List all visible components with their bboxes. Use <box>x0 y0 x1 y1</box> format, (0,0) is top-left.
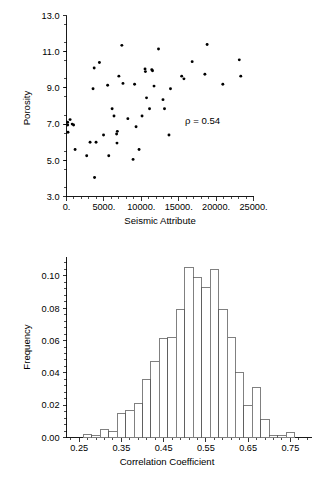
histogram-y-tick-label: 0.00 <box>42 433 60 443</box>
scatter-data-point <box>93 176 96 179</box>
scatter-data-point <box>141 115 144 118</box>
histogram-y-axis-title: Frequency <box>21 324 32 370</box>
scatter-data-point <box>74 148 77 151</box>
histogram-bar <box>193 278 201 438</box>
histogram-bar <box>117 413 125 437</box>
histogram-bar <box>92 436 100 438</box>
scatter-data-point <box>66 124 69 127</box>
scatter-x-tick-label: 15000. <box>165 202 193 212</box>
scatter-data-point <box>180 75 183 78</box>
scatter-y-tick-label: 5.0 <box>47 156 60 166</box>
scatter-data-point <box>102 134 105 137</box>
histogram-x-tick-label: 0.75 <box>281 443 299 453</box>
histogram-y-tick-label: 0.08 <box>42 304 60 314</box>
histogram-bar <box>252 387 260 437</box>
scatter-data-point <box>169 87 172 90</box>
histogram-x-axis-title: Correlation Coefficient <box>120 456 215 467</box>
scatter-data-point <box>106 84 109 87</box>
scatter-rho-annotation: ρ = 0.54 <box>185 115 221 126</box>
histogram-bar <box>286 433 294 438</box>
histogram-bar <box>219 310 227 438</box>
scatter-data-point <box>206 43 209 46</box>
scatter-data-point <box>115 133 118 136</box>
scatter-plot-group: 3.05.07.09.011.013.00.5000.10000.15000.2… <box>21 11 268 226</box>
histogram-bar <box>100 429 108 437</box>
histogram-x-tick-label: 0.25 <box>70 443 88 453</box>
histogram-bar <box>235 373 243 438</box>
histogram-bar <box>109 431 117 437</box>
scatter-data-point <box>72 124 75 127</box>
two-panel-figure: 3.05.07.09.011.013.00.5000.10000.15000.2… <box>0 0 326 490</box>
scatter-axes-lines <box>67 16 254 197</box>
scatter-y-tick-label: 3.0 <box>47 192 60 202</box>
scatter-data-point <box>191 60 194 63</box>
scatter-data-point <box>163 107 166 110</box>
histogram-bar <box>278 436 286 438</box>
scatter-data-point <box>95 141 98 144</box>
histogram-bar <box>227 337 235 437</box>
scatter-data-point <box>93 67 96 70</box>
scatter-x-tick-label: 5000. <box>92 202 115 212</box>
scatter-data-point <box>135 125 138 128</box>
scatter-data-point <box>182 77 185 80</box>
scatter-data-point <box>151 69 154 72</box>
scatter-data-point <box>66 121 69 124</box>
scatter-x-tick-label: 10000. <box>127 202 155 212</box>
scatter-y-tick-label: 11.0 <box>42 47 59 57</box>
histogram-bar <box>126 410 134 437</box>
histogram-y-tick-label: 0.02 <box>42 400 60 410</box>
histogram-bar <box>244 405 252 437</box>
scatter-data-point <box>144 67 147 70</box>
histogram-bar <box>83 434 91 437</box>
scatter-data-point <box>117 75 120 78</box>
histogram-x-tick-label: 0.35 <box>112 443 130 453</box>
histogram-bar <box>134 404 142 438</box>
scatter-data-point <box>89 141 92 144</box>
histogram-bar <box>202 287 210 437</box>
scatter-data-point <box>111 107 114 110</box>
scatter-data-point <box>126 117 129 120</box>
scatter-data-point <box>92 87 95 90</box>
scatter-data-point <box>69 118 72 121</box>
histogram-y-tick-label: 0.06 <box>42 336 60 346</box>
histogram-x-tick-label: 0.55 <box>197 443 215 453</box>
histogram-bar <box>176 310 184 438</box>
scatter-data-point <box>120 44 123 47</box>
scatter-data-point <box>153 85 156 88</box>
scatter-data-point <box>107 154 110 157</box>
scatter-data-point <box>116 130 119 133</box>
scatter-x-axis-title: Seismic Attribute <box>124 215 195 226</box>
histogram-bar <box>159 339 167 438</box>
histogram-plot-group: 0.000.020.040.060.080.100.250.350.450.55… <box>21 257 312 468</box>
scatter-data-point <box>85 154 88 157</box>
scatter-data-point <box>133 83 136 86</box>
scatter-data-point <box>148 107 151 110</box>
scatter-x-tick-label: 25000. <box>239 202 267 212</box>
scatter-y-tick-label: 9.0 <box>47 83 60 93</box>
scatter-data-point <box>221 83 224 86</box>
figure-panel-container: 3.05.07.09.011.013.00.5000.10000.15000.2… <box>0 0 326 490</box>
histogram-y-tick-label: 0.10 <box>42 271 60 281</box>
scatter-data-point <box>144 70 147 73</box>
scatter-data-point <box>113 115 116 118</box>
scatter-data-point <box>138 148 141 151</box>
scatter-y-tick-label: 13.0 <box>42 11 60 21</box>
scatter-data-point <box>67 131 70 134</box>
histogram-x-tick-label: 0.45 <box>155 443 173 453</box>
scatter-data-point <box>145 96 148 99</box>
scatter-data-point <box>132 158 135 161</box>
histogram-y-tick-label: 0.04 <box>42 368 60 378</box>
histogram-bar <box>185 268 193 438</box>
histogram-bar <box>143 379 151 437</box>
scatter-y-axis-title: Porosity <box>21 90 32 125</box>
histogram-bar <box>168 337 176 437</box>
histogram-bar <box>210 269 218 437</box>
scatter-data-point <box>162 98 165 101</box>
scatter-x-tick-label: 0. <box>63 202 71 212</box>
scatter-data-point <box>122 82 125 85</box>
scatter-y-tick-label: 7.0 <box>47 119 60 129</box>
scatter-data-point <box>239 75 242 78</box>
histogram-bar <box>269 436 277 438</box>
scatter-data-point <box>168 134 171 137</box>
histogram-x-tick-label: 0.65 <box>239 443 257 453</box>
